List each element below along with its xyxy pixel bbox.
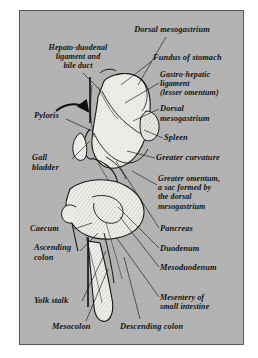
label-descending-colon: Descending colon: [120, 322, 212, 332]
label-greater-omentum: Greater omentum, a sac formed by the dor…: [158, 174, 248, 211]
label-yolk-stalk: Yolk stalk: [34, 296, 96, 306]
omental-bursa-arrow: [56, 104, 88, 111]
leader-pyloris: [66, 119, 92, 131]
stomach-group: [91, 69, 159, 168]
label-mesoduodenum: Mesoduodenum: [160, 263, 240, 273]
leader-hepato-duodenal: [83, 73, 101, 91]
label-caecum: Caecum: [30, 224, 88, 234]
label-mesocolon: Mesocolon: [52, 322, 120, 332]
label-dorsal-mesogastrium-2: Dorsal mesogastrium: [160, 104, 240, 123]
label-greater-curvature: Greater curvature: [156, 153, 244, 163]
anatomical-plate: Dorsal mesogastriumHepato-duodenal ligam…: [0, 0, 258, 358]
spleen-hatch: [140, 111, 159, 141]
label-gall-bladder: Gall bladder: [32, 153, 88, 172]
leader-greater-omentum: [132, 171, 157, 185]
plate-field: Dorsal mesogastriumHepato-duodenal ligam…: [19, 10, 244, 345]
label-spleen: Spleen: [164, 133, 220, 143]
leader-mesentery: [116, 237, 159, 297]
label-fundus-of-stomach: Fundus of stomach: [153, 53, 245, 63]
label-ascending-colon: Ascending colon: [34, 243, 98, 262]
label-hepato-duodenal: Hepato-duodenal ligament and bile duct: [26, 43, 130, 71]
leader-descending-colon: [124, 257, 140, 319]
label-dorsal-mesogastrium-top: Dorsal mesogastrium: [112, 25, 232, 35]
label-mesentery-small-intestine: Mesentery of small intestine: [160, 293, 244, 311]
label-duodenum: Duodenum: [160, 244, 226, 254]
label-pyloris: Pyloris: [34, 111, 90, 121]
label-gastro-hepatic: Gastro-hepatic ligament (lesser omentum): [160, 70, 246, 98]
label-pancreas: Pancreas: [160, 224, 222, 234]
